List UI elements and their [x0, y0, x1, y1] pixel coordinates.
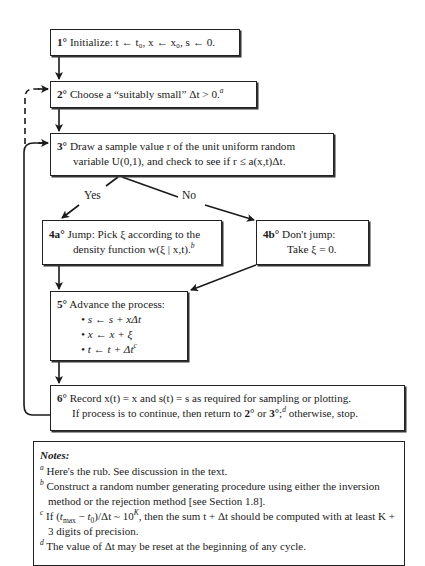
step-4b-box: 4b° Don't jump: Take ξ = 0. [256, 220, 369, 265]
step-5-number: 5° [57, 298, 67, 310]
branch-no-label: No [182, 189, 196, 201]
step-1-text: Initialize: t ← t₀, x ← x₀, s ← 0. [70, 36, 215, 48]
step-1-box: 1° Initialize: t ← t₀, x ← x₀, s ← 0. [50, 29, 240, 56]
step-6-line-1: Record x(t) = x and s(t) = s as required… [70, 392, 351, 404]
step-4a-line-2: density function w(ξ | x,t). [73, 243, 191, 255]
step-5-box: 5° Advance the process: • s ← s + xΔt • … [50, 291, 188, 361]
notes-box: Notes: a Here's the rub. See discussion … [33, 441, 405, 566]
step-3-line-2: variable U(0,1), and check to see if r ≤… [57, 154, 327, 169]
footnote-marker-b: b [191, 241, 195, 250]
solid-loop-6-to-3 [24, 143, 50, 415]
step-2-text: Choose a “suitably small” Δt > 0. [70, 88, 220, 100]
step-4b-line-2: Take ξ = 0. [263, 242, 362, 257]
arrow-yes-to-4a [62, 205, 79, 218]
step-4b-number: 4b° [263, 228, 279, 240]
step-3-line-1: Draw a sample value r of the unit unifor… [70, 140, 295, 152]
note-a: a Here's the rub. See discussion in the … [40, 464, 398, 479]
step-3-box: 3° Draw a sample value r of the unit uni… [50, 133, 334, 176]
step-5-bullet-3: • t ← t + Δtc [57, 342, 181, 357]
step-5-title: Advance the process: [69, 298, 165, 310]
step-6-number: 6° [57, 392, 67, 404]
step-6-line-2: If process is to continue, then return t… [57, 406, 398, 421]
step-4a-number: 4a° [49, 228, 65, 240]
step-4a-line-1: Jump: Pick ξ according to the [67, 228, 200, 240]
step-1-number: 1° [57, 36, 67, 48]
branch-yes-label: Yes [84, 189, 101, 201]
step-4b-line-1: Don't jump: [282, 228, 335, 240]
note-d: d The value of Δt may be reset at the be… [40, 539, 398, 554]
ref-step-2: 2° [245, 407, 255, 419]
step-3-number: 3° [57, 140, 67, 152]
footnote-marker-a: a [220, 86, 224, 95]
arrow-4b-to-5 [191, 265, 256, 290]
step-5-bullet-2: • x ← x + ξ [57, 327, 181, 342]
step-6-box: 6° Record x(t) = x and s(t) = s as requi… [50, 385, 405, 431]
step-4a-box: 4a° Jump: Pick ξ according to the densit… [42, 220, 222, 265]
note-c: c If (tmax − t0)/Δt ~ 10K, then the sum … [40, 509, 398, 538]
step-5-bullet-1: • s ← s + xΔt [57, 312, 181, 327]
notes-title: Notes: [40, 448, 398, 463]
note-b: b Construct a random number generating p… [40, 479, 398, 508]
dashed-loop-to-2 [25, 89, 48, 144]
step-2-number: 2° [57, 88, 67, 100]
ref-step-3: 3° [269, 407, 279, 419]
footnote-marker-c: c [134, 341, 137, 350]
arrow-no-to-4b [205, 205, 254, 220]
step-2-box: 2° Choose a “suitably small” Δt > 0.a [50, 81, 257, 108]
